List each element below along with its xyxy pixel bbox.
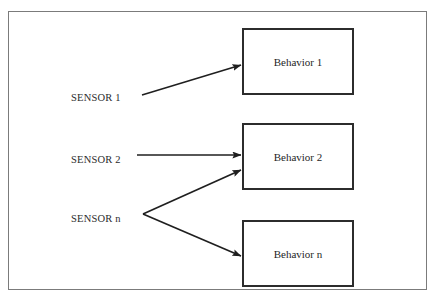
behavior-box-n[interactable]: Behavior n: [242, 220, 354, 287]
behavior-box-2[interactable]: Behavior 2: [242, 123, 354, 190]
behavior-box-1-label: Behavior 1: [274, 56, 323, 68]
figure-frame: Behavior 1 Behavior 2 Behavior n SENSOR …: [8, 11, 427, 290]
behavior-box-n-label: Behavior n: [274, 248, 323, 260]
sensor-label-1: SENSOR 1: [71, 92, 121, 103]
figure-page: Behavior 1 Behavior 2 Behavior n SENSOR …: [0, 0, 439, 303]
sensor-label-n: SENSOR n: [71, 213, 121, 224]
behavior-box-1[interactable]: Behavior 1: [242, 28, 354, 95]
sensor-label-2: SENSOR 2: [71, 154, 121, 165]
behavior-box-2-label: Behavior 2: [274, 151, 323, 163]
